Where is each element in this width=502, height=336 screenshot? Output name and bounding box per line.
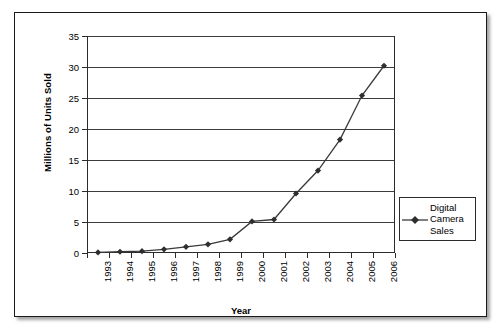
x-tick-mark: [351, 253, 352, 258]
y-tick-label: 10: [68, 186, 79, 197]
y-axis-title: Millions of Units Sold: [42, 43, 53, 203]
legend-marker-icon: [400, 198, 430, 240]
y-tick-label: 15: [68, 155, 79, 166]
x-tick-label: 2006: [388, 261, 399, 282]
x-tick-mark: [219, 253, 220, 258]
data-point-marker: [117, 249, 123, 255]
x-tick-mark: [373, 253, 374, 258]
data-point-marker: [95, 249, 101, 255]
x-tick-label: 1994: [124, 261, 135, 282]
x-tick-label: 2005: [366, 261, 377, 282]
x-tick-label: 2004: [344, 261, 355, 282]
data-series-digital-camera-sales: [87, 36, 395, 253]
x-tick-mark: [395, 253, 396, 258]
x-tick-label: 1998: [212, 261, 223, 282]
x-tick-mark: [175, 253, 176, 258]
x-tick-mark: [87, 253, 88, 258]
x-tick-label: 2001: [278, 261, 289, 282]
x-tick-label: 2000: [256, 261, 267, 282]
x-tick-mark: [241, 253, 242, 258]
y-tick-label: 35: [68, 31, 79, 42]
data-point-marker: [139, 248, 145, 254]
data-point-marker: [183, 244, 189, 250]
x-tick-label: 1995: [146, 261, 157, 282]
y-tick-label: 0: [74, 248, 79, 259]
y-tick-label: 25: [68, 93, 79, 104]
x-tick-mark: [131, 253, 132, 258]
chart-legend: Digital Camera Sales: [399, 197, 476, 241]
plot-area: 05101520253035 1993199419951996199719981…: [87, 36, 395, 253]
x-tick-mark: [153, 253, 154, 258]
x-tick-mark: [109, 253, 110, 258]
x-tick-mark: [263, 253, 264, 258]
x-tick-label: 1997: [190, 261, 201, 282]
chart-figure-frame: Millions of Units Sold 05101520253035 19…: [14, 12, 487, 317]
x-tick-mark: [307, 253, 308, 258]
series-line: [98, 66, 384, 253]
x-tick-mark: [329, 253, 330, 258]
x-tick-label: 1993: [102, 261, 113, 282]
y-tick-label: 5: [74, 217, 79, 228]
x-tick-label: 2002: [300, 261, 311, 282]
x-tick-label: 1996: [168, 261, 179, 282]
data-point-marker: [205, 241, 211, 247]
y-tick-label: 30: [68, 62, 79, 73]
x-tick-label: 1999: [234, 261, 245, 282]
legend-line-diamond-icon: [400, 198, 430, 242]
x-tick-mark: [197, 253, 198, 258]
x-axis-title: Year: [87, 305, 395, 316]
data-point-marker: [161, 246, 167, 252]
x-tick-mark: [285, 253, 286, 258]
legend-entry-label: Digital Camera Sales: [430, 202, 475, 237]
y-tick-label: 20: [68, 124, 79, 135]
x-tick-label: 2003: [322, 261, 333, 282]
